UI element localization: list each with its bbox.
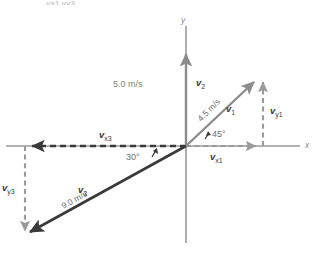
component-label-vx1: vx1 bbox=[210, 152, 223, 164]
vector-label-v1: v1 bbox=[226, 104, 235, 116]
angle-tick-30 bbox=[152, 148, 158, 157]
vector-label-v2: v2 bbox=[196, 78, 205, 90]
angle-tick-45 bbox=[205, 131, 211, 139]
component-label-vx1-sub: x1 bbox=[215, 157, 222, 164]
component-label-vy3-sub: y3 bbox=[7, 188, 14, 195]
component-label-vy1-sub: y1 bbox=[275, 111, 282, 118]
component-label-vx3-sub: x3 bbox=[104, 135, 111, 142]
component-label-vy3: vy3 bbox=[2, 183, 15, 195]
vector-label-v2-sub: 2 bbox=[201, 83, 205, 90]
component-label-vy1: vy1 bbox=[270, 106, 283, 118]
vector-v3 bbox=[30, 146, 186, 232]
axis-x-label: x bbox=[305, 141, 309, 150]
angle-label-45: 45° bbox=[212, 130, 226, 139]
diagram-canvas bbox=[0, 0, 321, 253]
cut-off-top-label: vx1 vy3 bbox=[46, 0, 75, 5]
vector-diagram-figure: vx1 vy3 bbox=[0, 0, 321, 253]
component-label-vx3: vx3 bbox=[99, 130, 112, 142]
axis-y-label: y bbox=[181, 16, 185, 25]
vector-label-v1-sub: 1 bbox=[231, 109, 235, 116]
magnitude-label-v2: 5.0 m/s bbox=[113, 80, 143, 89]
angle-label-30: 30° bbox=[126, 153, 140, 162]
